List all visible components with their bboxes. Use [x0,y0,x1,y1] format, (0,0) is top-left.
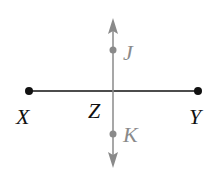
label-k: K [122,122,139,147]
label-x: X [15,104,31,129]
label-y: Y [189,104,204,129]
point-j [110,47,117,54]
point-k [110,131,117,138]
perpendicular-lines-diagram: X Y Z J K [0,0,221,174]
point-x [25,87,33,95]
point-y [194,87,202,95]
label-z: Z [88,98,101,123]
label-j: J [123,40,134,65]
